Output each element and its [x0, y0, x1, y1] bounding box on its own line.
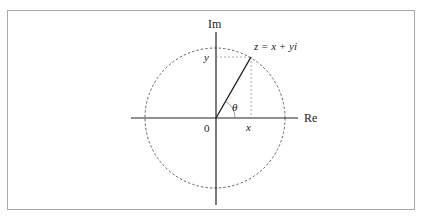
x-label: x: [245, 121, 251, 133]
real-axis-label: Re: [304, 111, 317, 125]
point-z-label: z = x + yi: [253, 40, 297, 52]
origin-label: 0: [204, 122, 210, 134]
imaginary-axis-label: Im: [208, 17, 222, 31]
complex-plane-diagram: Im Re 0 z = x + yi y x θ: [0, 0, 424, 218]
theta-label: θ: [232, 101, 238, 113]
y-label: y: [203, 51, 209, 63]
